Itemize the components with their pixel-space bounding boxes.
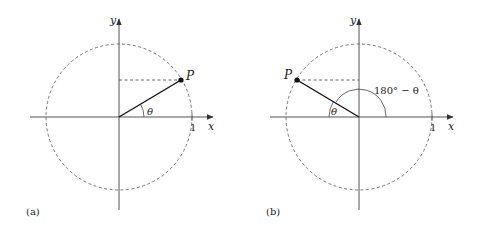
tick-label: 1 [190,122,196,133]
angle-label: θ [331,106,337,117]
tick-label: 1 [430,122,436,133]
point-p [178,77,183,82]
panel-b: y x P θ 180° − θ 1 (b) [266,14,455,217]
caption-b: (b) [266,206,280,217]
unit-circle-figure: y x P θ 1 (a) y x P θ 180° − θ 1 (b) [0,0,480,227]
x-axis-label: x [448,120,455,133]
panel-a: y x P θ 1 (a) [26,14,215,217]
y-axis-label: y [349,14,357,27]
caption-a: (a) [26,206,40,217]
x-axis-label: x [208,120,215,133]
y-axis-label: y [109,14,117,27]
point-p [294,77,299,82]
radius-line [297,80,359,117]
theta-arc [141,104,145,117]
angle-label: θ [147,106,153,117]
point-label: P [185,69,195,83]
supplement-label: 180° − θ [374,85,419,96]
point-label: P [283,68,293,82]
